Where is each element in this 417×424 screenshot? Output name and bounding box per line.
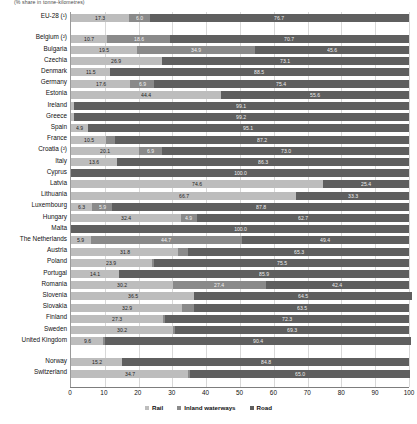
bar-segment-rail: 15.2 — [71, 358, 122, 366]
category-label: Norway — [45, 357, 67, 364]
legend-item-road[interactable]: Road — [250, 404, 272, 411]
bar-row: Norway15.284.8 — [71, 358, 409, 366]
bar-segment-rail: 11.5 — [71, 68, 110, 76]
chart-subtitle: (% share in tonne-kilometres) — [14, 0, 85, 5]
segment-value: 23.9 — [106, 260, 116, 266]
bar-row: Czechia26.973.1 — [71, 57, 409, 65]
bar-segment-rail: 31.8 — [71, 248, 178, 256]
segment-value: 31.8 — [120, 249, 130, 255]
bar-rows: EU-28 (¹)17.36.076.7Belgium (²)10.718.67… — [71, 12, 409, 387]
freight-modal-split-chart: (% share in tonne-kilometres) EU-28 (¹)1… — [0, 0, 417, 424]
segment-value: 36.5 — [128, 293, 138, 299]
stacked-bar: 32.93.663.5 — [71, 304, 409, 312]
segment-value: 11.5 — [86, 69, 96, 75]
bar-row: Croatia (²)20.16.973.0 — [71, 147, 409, 155]
segment-value: 65.3 — [294, 249, 304, 255]
segment-value: 73.1 — [280, 58, 290, 64]
bar-segment-rail: 10.7 — [71, 35, 107, 43]
category-label: Romania — [41, 280, 67, 287]
segment-value: 5.9 — [77, 237, 84, 243]
category-label: Sweden — [44, 325, 67, 332]
category-label: Bulgaria — [44, 45, 67, 52]
bar-segment-iww: 2.4 — [106, 136, 114, 144]
category-label: EU-28 (¹) — [41, 12, 67, 19]
segment-value: 26.9 — [112, 58, 122, 64]
segment-value: 18.6 — [134, 36, 144, 42]
bar-segment-iww: 6.0 — [129, 14, 149, 22]
legend-label: Inland waterways — [184, 404, 235, 411]
stacked-bar: 26.973.1 — [71, 57, 409, 65]
segment-value: 63.5 — [297, 305, 307, 311]
bar-segment-rail: 32.4 — [71, 214, 181, 222]
segment-value: 75.5 — [277, 260, 287, 266]
bar-segment-road: 65.3 — [188, 248, 409, 256]
x-axis-tick: 30 — [168, 389, 175, 396]
x-axis-tick: 100 — [404, 389, 415, 396]
stacked-bar: 32.44.962.7 — [71, 214, 409, 222]
bar-row: Hungary32.44.962.7 — [71, 214, 409, 222]
stacked-bar: 11.588.5 — [71, 68, 409, 76]
bar-segment-road: 86.3 — [117, 158, 409, 166]
stacked-bar: 0.999.1 — [71, 102, 409, 110]
segment-value: 6.3 — [78, 204, 85, 210]
bar-segment-road: 88.5 — [110, 68, 409, 76]
bar-row: Austria31.82.965.3 — [71, 248, 409, 256]
x-axis-tick: 50 — [236, 389, 243, 396]
stacked-bar: 4.995.1 — [71, 124, 409, 132]
bar-segment-road: 85.9 — [119, 270, 409, 278]
segment-value: 34.7 — [125, 371, 135, 377]
bar-segment-iww: 44.7 — [91, 236, 242, 244]
bar-segment-road: 72.3 — [165, 315, 409, 323]
bar-segment-road: 64.5 — [194, 292, 412, 300]
bar-row: Greece0.899.2 — [71, 113, 409, 121]
category-label: Hungary — [43, 213, 67, 220]
category-label: Germany — [41, 78, 67, 85]
bar-segment-road: 55.6 — [221, 91, 409, 99]
bar-segment-road: 90.4 — [105, 337, 411, 345]
legend-label: Road — [257, 404, 272, 411]
bar-segment-road: 75.5 — [154, 259, 409, 267]
segment-value: 95.1 — [243, 125, 253, 131]
bar-row: Sweden30.20.569.3 — [71, 326, 409, 334]
segment-value: 64.5 — [298, 293, 308, 299]
bar-segment-road: 87.8 — [112, 203, 409, 211]
category-label: Cyprus — [47, 168, 67, 175]
legend-item-rail[interactable]: Rail — [145, 404, 163, 411]
category-label: Italy — [55, 157, 67, 164]
category-label: Ireland — [47, 101, 67, 108]
bar-row: Slovenia36.564.5 — [71, 292, 409, 300]
bar-segment-road: 65.0 — [190, 370, 410, 378]
segment-value: 49.4 — [321, 237, 331, 243]
segment-value: 32.4 — [121, 215, 131, 221]
x-axis-tick: 20 — [134, 389, 141, 396]
segment-value: 72.3 — [282, 316, 292, 322]
bar-segment-iww: 34.9 — [137, 46, 255, 54]
stacked-bar: 5.944.749.4 — [71, 236, 409, 244]
bar-row: Cyprus100.0 — [71, 169, 409, 177]
stacked-bar: 14.185.9 — [71, 270, 409, 278]
stacked-bar: 19.534.945.6 — [71, 46, 409, 54]
bar-segment-rail: 13.6 — [71, 158, 117, 166]
bar-row: Portugal14.185.9 — [71, 270, 409, 278]
bar-segment-iww: 18.6 — [107, 35, 170, 43]
bar-row: Slovakia32.93.663.5 — [71, 304, 409, 312]
category-label: Lithuania — [41, 190, 67, 197]
bar-segment-road: 45.6 — [255, 46, 409, 54]
bar-segment-rail: 20.1 — [71, 147, 139, 155]
bar-row: Ireland0.999.1 — [71, 102, 409, 110]
segment-value: 99.2 — [236, 114, 246, 120]
legend-item-iww[interactable]: Inland waterways — [177, 404, 235, 411]
category-label: Luxembourg — [31, 201, 67, 208]
category-label: Denmark — [41, 67, 67, 74]
bar-row: Italy13.60.186.3 — [71, 158, 409, 166]
stacked-bar: 27.30.572.3 — [71, 315, 409, 323]
x-axis: 0102030405060708090100 — [70, 389, 409, 401]
bar-segment-iww: 6.9 — [139, 147, 162, 155]
segment-value: 45.6 — [327, 47, 337, 53]
bar-segment-road: 33.3 — [296, 192, 409, 200]
plot-area: EU-28 (¹)17.36.076.7Belgium (²)10.718.67… — [70, 12, 409, 387]
bar-segment-rail: 32.9 — [71, 304, 182, 312]
bar-segment-iww: 5.9 — [92, 203, 112, 211]
segment-value: 55.6 — [310, 92, 320, 98]
bar-segment-road: 49.4 — [242, 236, 409, 244]
